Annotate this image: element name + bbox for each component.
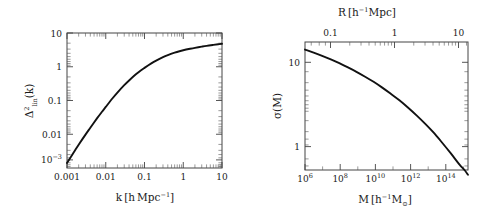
svg-text:σ(M): σ(M) (271, 93, 283, 119)
left-ytick-label-2: 0.1 (48, 96, 62, 106)
right-x-axis-label: M[h−1M⊙] (358, 193, 412, 208)
left-panel-svg: Δ2lin(k) (0, 0, 245, 220)
left-xtick-label-1: 0.01 (96, 172, 116, 182)
right-ytick-label-0: 10 (289, 58, 301, 68)
right-toptick-label-2: 10 (453, 28, 465, 38)
left-panel: Δ2lin(k) (0, 0, 245, 220)
left-ytick-label-4: 10−3 (41, 153, 62, 165)
right-y-minor-ticks (305, 72, 468, 166)
right-top-minor-ticks (311, 42, 466, 46)
right-toptick-label-1: 1 (392, 28, 398, 38)
right-xtick-label-4: 1014 (436, 172, 456, 184)
right-y-major-ticks (305, 62, 468, 146)
right-x-minor-ticks (323, 166, 464, 170)
right-panel-svg: R[h−1Mpc] σ(M) (245, 0, 490, 220)
left-xtick-label-0: 0.001 (54, 172, 80, 182)
left-x-axis-label: k[hMpc−1] (116, 191, 174, 203)
right-xtick-label-1: 108 (332, 172, 348, 184)
right-panel: R[h−1Mpc] σ(M) (245, 0, 490, 220)
figure-container: Δ2lin(k) (0, 0, 490, 220)
left-data-curve (67, 44, 222, 163)
left-xtick-label-3: 1 (180, 172, 186, 182)
right-top-axis-label: R[h−1Mpc] (338, 6, 396, 18)
right-ytick-label-1: 1 (294, 142, 300, 152)
right-xtick-label-0: 106 (297, 172, 313, 184)
left-x-minor-ticks (79, 33, 221, 168)
left-plot-frame (67, 33, 222, 168)
right-data-curve (305, 50, 468, 175)
right-xtick-label-3: 1012 (401, 172, 421, 184)
left-y-axis-label: Δ2lin(k) (23, 84, 39, 119)
left-ytick-label-1: 1 (56, 62, 62, 72)
left-xtick-label-2: 0.1 (137, 172, 151, 182)
left-x-major-ticks (67, 33, 222, 168)
right-x-major-ticks (305, 164, 446, 170)
left-ytick-label-3: 0.01 (42, 130, 62, 140)
right-toptick-label-0: 0.1 (323, 28, 337, 38)
left-y-minor-ticks (67, 43, 222, 166)
right-plot-frame (305, 42, 468, 170)
svg-text:Δ2lin(k): Δ2lin(k) (23, 84, 39, 119)
left-ytick-label-0: 10 (51, 29, 63, 39)
left-y-major-ticks (67, 33, 222, 160)
right-y-axis-label: σ(M) (271, 93, 283, 119)
right-xtick-label-2: 1010 (366, 172, 386, 184)
left-xtick-label-4: 10 (216, 172, 228, 182)
